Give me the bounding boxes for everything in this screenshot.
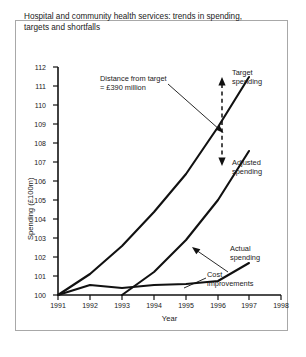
y-tick-label: 107 xyxy=(22,159,46,166)
x-tick-label: 1994 xyxy=(139,302,169,309)
annotation-cost-line1: Cost xyxy=(207,270,283,279)
annotation-adjusted-line2: spending xyxy=(232,167,290,176)
actual-spending-leader-line xyxy=(192,247,228,272)
y-tick-label: 108 xyxy=(22,140,46,147)
x-tick-label: 1991 xyxy=(43,302,73,309)
annotation-target-spending: Target spending xyxy=(232,68,288,86)
x-tick-label: 1995 xyxy=(171,302,201,309)
x-tick-label: 1993 xyxy=(107,302,137,309)
annotation-distance-line2: = £390 million xyxy=(100,83,180,92)
annotation-actual-spending: Actual spending xyxy=(230,244,286,262)
annotation-target-line1: Target xyxy=(232,68,288,77)
y-tick-label: 102 xyxy=(22,254,46,261)
annotation-cost-line2: improvements xyxy=(207,279,283,288)
x-axis-title: Year xyxy=(58,314,281,323)
distance-dashed-arrow xyxy=(218,77,225,166)
annotation-actual-line1: Actual xyxy=(230,244,286,253)
annotation-adjusted-line1: Adjusted xyxy=(232,158,290,167)
x-tick-label: 1992 xyxy=(75,302,105,309)
y-tick-label: 110 xyxy=(22,102,46,109)
annotation-distance-from-target: Distance from target = £390 million xyxy=(100,74,180,92)
x-tick-label: 1997 xyxy=(234,302,264,309)
y-tick-label: 100 xyxy=(22,292,46,299)
annotation-target-line2: spending xyxy=(232,77,288,86)
chart-plot-area: 112 111 110 109 108 107 106 105 104 103 … xyxy=(0,0,306,357)
series-target-spending xyxy=(58,77,249,295)
y-tick-label: 111 xyxy=(22,83,46,90)
x-tick-label: 1998 xyxy=(266,302,296,309)
x-tick-label: 1996 xyxy=(203,302,233,309)
y-tick-label: 112 xyxy=(22,64,46,71)
annotation-cost-improvements: Cost improvements xyxy=(207,270,283,288)
y-tick-label: 109 xyxy=(22,121,46,128)
y-tick-label: 101 xyxy=(22,273,46,280)
annotation-actual-line2: spending xyxy=(230,253,286,262)
y-axis-title: Spending (£100m) xyxy=(26,178,35,240)
annotation-adjusted-spending: Adjusted spending xyxy=(232,158,290,176)
annotation-distance-line1: Distance from target xyxy=(100,74,180,83)
